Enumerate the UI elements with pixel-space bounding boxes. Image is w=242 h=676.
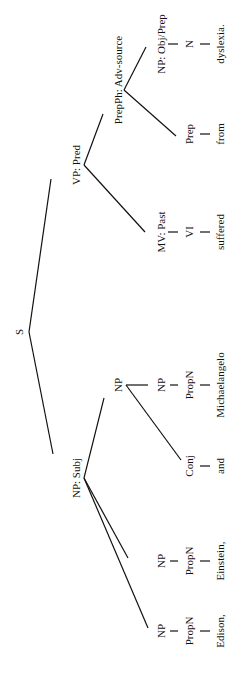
node-s: S <box>13 329 25 335</box>
edge-npsubj-np2 <box>84 478 128 558</box>
node-np-subj: NP: Subj <box>70 458 82 498</box>
node-propn1: PropN <box>183 617 195 646</box>
node-np2: NP <box>155 554 167 568</box>
edge-vp-prepph <box>84 114 103 165</box>
node-np-obj: NP: Obj/Prep <box>155 14 167 74</box>
node-n: N <box>183 40 195 48</box>
word-einstein: Einstein, <box>214 541 226 580</box>
edge-vp-mvpast <box>84 165 145 232</box>
edge-s-npsubj <box>29 332 53 454</box>
tree-labels: S VP: Pred NP: Subj PrepPh: Adv-source N… <box>13 14 226 648</box>
word-dyslexia: dyslexia. <box>214 24 226 64</box>
edge-prepph-npobj <box>124 47 146 90</box>
edge-npsubj-np1 <box>84 478 148 628</box>
word-from: from <box>214 123 226 145</box>
node-prep: Prep <box>183 123 195 144</box>
node-conj: Conj <box>183 455 195 476</box>
word-and: and <box>214 458 226 474</box>
edge-s-vp <box>29 179 51 332</box>
edge-prepph-prep <box>124 90 176 136</box>
node-vi: VI <box>183 226 195 238</box>
node-propn2: PropN <box>183 547 195 576</box>
word-edison: Edison, <box>214 614 226 648</box>
word-suffered: suffered <box>214 214 226 250</box>
syntax-tree-diagram: S VP: Pred NP: Subj PrepPh: Adv-source N… <box>0 0 242 676</box>
edge-npsubj-np3 <box>84 398 104 478</box>
node-mv-past: MV: Past <box>155 211 167 252</box>
node-np3: NP <box>112 378 124 392</box>
node-prepph: PrepPh: Adv-source <box>112 36 124 124</box>
node-propn3: PropN <box>183 371 195 400</box>
node-np4: NP <box>155 378 167 392</box>
word-michaelangelo: Michaelangelo <box>214 352 226 418</box>
node-np1: NP <box>155 624 167 638</box>
node-vp-pred: VP: Pred <box>70 144 82 185</box>
edge-np3-conj <box>126 385 181 460</box>
